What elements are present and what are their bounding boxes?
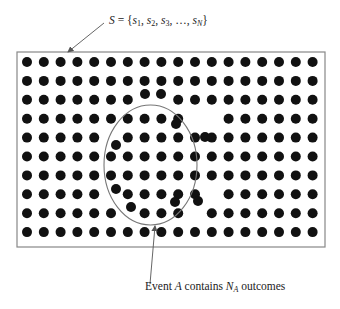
outcome-dot xyxy=(140,208,150,218)
outcome-dot xyxy=(56,170,66,180)
outcome-dot xyxy=(274,114,284,124)
outcome-dot xyxy=(190,170,200,180)
outcome-dot xyxy=(111,140,121,150)
outcome-dot xyxy=(207,95,217,105)
outcome-dot xyxy=(274,76,284,86)
outcome-dot xyxy=(22,57,32,67)
outcome-dot xyxy=(22,114,32,124)
outcome-dot xyxy=(22,189,32,199)
outcome-dot xyxy=(89,114,99,124)
outcome-dot xyxy=(156,152,166,162)
outcome-dot xyxy=(56,152,66,162)
outcome-dot xyxy=(308,95,318,105)
outcome-dot xyxy=(224,208,234,218)
outcome-dot xyxy=(308,152,318,162)
outcome-dot xyxy=(291,76,301,86)
outcome-dot xyxy=(123,170,133,180)
outcome-dot xyxy=(274,189,284,199)
outcome-dot xyxy=(173,170,183,180)
outcome-dot xyxy=(274,133,284,143)
outcome-dot xyxy=(56,114,66,124)
outcome-dot xyxy=(39,170,49,180)
outcome-dot xyxy=(156,227,166,237)
outcome-dot xyxy=(39,227,49,237)
outcome-dot xyxy=(89,95,99,105)
sample-space-diagram xyxy=(0,0,340,309)
outcome-dot xyxy=(274,152,284,162)
outcome-dot xyxy=(156,57,166,67)
outcome-dot xyxy=(308,114,318,124)
outcome-dot xyxy=(291,114,301,124)
outcome-dot xyxy=(72,133,82,143)
outcome-dot xyxy=(308,76,318,86)
outcome-dot xyxy=(291,170,301,180)
outcome-dot xyxy=(156,170,166,180)
outcome-dot xyxy=(56,57,66,67)
outcome-dot xyxy=(39,133,49,143)
outcome-dot xyxy=(39,114,49,124)
ellipsis: … xyxy=(175,14,187,26)
outcome-dot xyxy=(123,133,133,143)
outcome-dot xyxy=(56,208,66,218)
outcome-dot xyxy=(308,227,318,237)
outcome-dot xyxy=(22,133,32,143)
outcome-dot xyxy=(156,114,166,124)
outcome-dot xyxy=(291,189,301,199)
outcome-dot xyxy=(22,152,32,162)
outcome-dot xyxy=(56,133,66,143)
outcome-dot xyxy=(207,57,217,67)
outcome-dot xyxy=(240,76,250,86)
outcome-dot xyxy=(106,95,116,105)
set-equals: = { xyxy=(115,14,133,26)
outcome-dot xyxy=(240,189,250,199)
outcome-dot xyxy=(207,152,217,162)
outcome-dot xyxy=(257,57,267,67)
outcome-dot xyxy=(224,95,234,105)
outcome-dot xyxy=(56,76,66,86)
outcome-dot xyxy=(72,57,82,67)
outcome-dot xyxy=(72,170,82,180)
outcome-dot xyxy=(190,57,200,67)
outcome-dot xyxy=(173,57,183,67)
outcome-dot xyxy=(257,95,267,105)
outcome-dot xyxy=(39,152,49,162)
outcome-dot xyxy=(257,114,267,124)
outcome-dot xyxy=(72,114,82,124)
outcome-dot xyxy=(156,208,166,218)
outcome-dot xyxy=(291,95,301,105)
outcome-dot xyxy=(123,57,133,67)
outcome-dot xyxy=(193,196,203,206)
outcome-dot xyxy=(190,227,200,237)
outcome-dot xyxy=(89,170,99,180)
outcome-dot xyxy=(72,227,82,237)
sample-space-label: S = {s1, s2, s3, …, sN} xyxy=(109,14,208,26)
outcome-dot xyxy=(106,227,116,237)
outcome-dot xyxy=(89,133,99,143)
outcome-dot xyxy=(207,170,217,180)
outcome-dot xyxy=(291,57,301,67)
outcome-dot xyxy=(224,189,234,199)
event-middle: contains xyxy=(182,280,226,292)
outcome-dot xyxy=(173,152,183,162)
outcome-dot xyxy=(224,227,234,237)
outcome-dot xyxy=(240,57,250,67)
outcome-dot xyxy=(123,76,133,86)
outcome-dot xyxy=(140,170,150,180)
outcome-dot xyxy=(39,76,49,86)
outcome-dot xyxy=(240,95,250,105)
outcome-dot xyxy=(207,208,217,218)
outcome-dot xyxy=(257,189,267,199)
outcome-dot xyxy=(156,189,166,199)
outcome-dot xyxy=(39,208,49,218)
outcome-dot xyxy=(224,57,234,67)
outcome-dot xyxy=(224,170,234,180)
outcome-dot xyxy=(22,227,32,237)
outcome-dot xyxy=(156,76,166,86)
outcome-dot xyxy=(140,227,150,237)
outcome-dot xyxy=(22,170,32,180)
event-symbol: A xyxy=(175,280,182,292)
event-label: Event A contains NA outcomes xyxy=(145,280,285,292)
outcome-dot xyxy=(190,95,200,105)
outcome-dot xyxy=(140,114,150,124)
outcome-dot xyxy=(72,208,82,218)
